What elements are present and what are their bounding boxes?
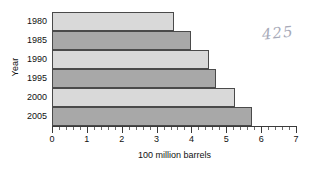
x-tick-minor — [275, 127, 276, 130]
x-tick-minor — [247, 127, 248, 130]
x-tick-major — [87, 127, 88, 133]
plot-area — [52, 12, 296, 126]
x-tick-major — [261, 127, 262, 133]
x-tick-label: 7 — [286, 134, 306, 145]
x-tick-minor — [171, 127, 172, 130]
x-tick-minor — [268, 127, 269, 130]
x-tick-minor — [136, 127, 137, 130]
x-tick-major — [122, 127, 123, 133]
x-tick-label: 5 — [216, 134, 236, 145]
bar-row — [52, 107, 296, 126]
y-axis-tick-labels: 1980 1985 1990 1995 2000 2005 — [20, 12, 50, 126]
y-tick-label: 1990 — [20, 50, 50, 69]
bar-1985 — [52, 31, 191, 50]
x-tick-minor — [73, 127, 74, 130]
x-tick-minor — [94, 127, 95, 130]
x-tick-minor — [129, 127, 130, 130]
x-tick-minor — [80, 127, 81, 130]
bar-2000 — [52, 88, 235, 107]
x-tick-minor — [66, 127, 67, 130]
x-tick-label: 2 — [112, 134, 132, 145]
x-tick-major — [157, 127, 158, 133]
x-tick-minor — [150, 127, 151, 130]
x-tick-minor — [205, 127, 206, 130]
handwritten-note-annotation: 425 — [261, 22, 294, 43]
y-tick-label: 1985 — [20, 31, 50, 50]
x-tick-label: 4 — [181, 134, 201, 145]
x-tick-minor — [219, 127, 220, 130]
x-tick-major — [296, 127, 297, 133]
bar-row — [52, 12, 296, 31]
x-tick-major — [191, 127, 192, 133]
x-tick-minor — [198, 127, 199, 130]
bars-group — [52, 12, 296, 126]
bar-row — [52, 69, 296, 88]
x-tick-minor — [289, 127, 290, 130]
x-tick-minor — [240, 127, 241, 130]
x-tick-minor — [212, 127, 213, 130]
bar-row — [52, 50, 296, 69]
x-axis-tick-labels: 01234567 — [52, 134, 297, 146]
x-axis-title: 100 million barrels — [52, 150, 297, 161]
x-tick-minor — [254, 127, 255, 130]
bar-1980 — [52, 12, 174, 31]
x-tick-minor — [108, 127, 109, 130]
bar-1990 — [52, 50, 209, 69]
y-tick-label: 2005 — [20, 107, 50, 126]
x-tick-label: 1 — [77, 134, 97, 145]
bar-row — [52, 31, 296, 50]
x-tick-minor — [101, 127, 102, 130]
x-tick-minor — [233, 127, 234, 130]
x-tick-label: 0 — [42, 134, 62, 145]
bar-1995 — [52, 69, 216, 88]
x-tick-major — [226, 127, 227, 133]
x-tick-minor — [115, 127, 116, 130]
bar-row — [52, 88, 296, 107]
x-tick-minor — [282, 127, 283, 130]
x-tick-minor — [184, 127, 185, 130]
y-tick-label: 1980 — [20, 12, 50, 31]
bar-2005 — [52, 107, 252, 126]
x-axis-ticks — [52, 127, 297, 133]
x-tick-minor — [143, 127, 144, 130]
x-tick-label: 3 — [147, 134, 167, 145]
y-tick-label: 1995 — [20, 69, 50, 88]
x-tick-minor — [177, 127, 178, 130]
y-tick-label: 2000 — [20, 88, 50, 107]
x-tick-minor — [164, 127, 165, 130]
x-tick-major — [52, 127, 53, 133]
x-tick-minor — [59, 127, 60, 130]
bar-chart-figure: Year 1980 1985 1990 1995 2000 2005 01234… — [0, 0, 320, 171]
x-tick-label: 6 — [251, 134, 271, 145]
